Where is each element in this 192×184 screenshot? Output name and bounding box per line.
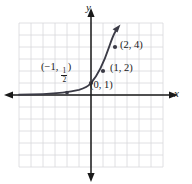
point-label-minus1-half: (−1, 12) [41, 62, 71, 83]
fraction-denominator: 2 [61, 75, 67, 84]
point-marker-1-2 [101, 69, 105, 73]
point-label-1-2: (1, 2) [110, 63, 133, 74]
y-axis-label: y [86, 2, 91, 13]
point-label-0-1: (0, 1) [90, 80, 113, 91]
coordinate-plane [0, 0, 192, 184]
point-label-minus1-half-open: (−1, [41, 61, 61, 72]
fraction-one-half: 12 [61, 67, 67, 83]
point-label-minus1-half-close: ) [68, 61, 72, 72]
x-axis-label: x [174, 88, 179, 99]
exponential-graph-figure: y x (2, 4) (1, 2) (0, 1) (−1, 12) [0, 0, 192, 184]
point-label-2-4: (2, 4) [120, 40, 143, 51]
fraction-numerator: 1 [61, 67, 67, 75]
point-marker-2-4 [113, 45, 117, 49]
point-marker-minus1-half [65, 91, 69, 95]
